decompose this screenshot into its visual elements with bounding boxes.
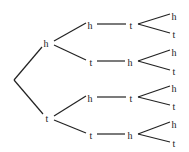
tree-branch — [138, 50, 170, 61]
tree-branch — [138, 97, 170, 105]
tree-branch — [138, 122, 170, 134]
node-label-n22: t — [90, 130, 93, 141]
node-label-n221: h — [128, 130, 133, 141]
node-label-l5: h — [172, 83, 177, 94]
tree-branch — [138, 86, 170, 97]
tree-branch — [138, 61, 170, 70]
node-label-l8: t — [173, 138, 176, 149]
node-label-l7: h — [172, 119, 177, 130]
tree-branch — [54, 23, 86, 41]
node-label-l2: t — [173, 29, 176, 40]
tree-branch — [138, 134, 170, 142]
node-label-l4: t — [173, 66, 176, 77]
tree-branch — [138, 24, 170, 33]
node-label-n111: t — [130, 20, 133, 31]
tree-branch — [54, 45, 86, 60]
tree-diagram: hththtththhthththt — [0, 0, 189, 152]
node-label-l3: h — [172, 47, 177, 58]
node-label-l6: t — [173, 101, 176, 112]
node-label-n1: h — [44, 38, 49, 49]
tree-branch — [14, 80, 43, 114]
node-label-l1: h — [172, 11, 177, 22]
node-label-n2: t — [46, 113, 49, 124]
tree-branch — [14, 47, 42, 80]
tree-branch — [138, 14, 170, 24]
node-label-n21: h — [88, 93, 93, 104]
tree-branch — [54, 120, 86, 133]
tree-branch — [54, 96, 86, 116]
node-label-n211: t — [130, 93, 133, 104]
node-label-n12: t — [90, 57, 93, 68]
node-label-n121: h — [128, 57, 133, 68]
node-label-n11: h — [88, 20, 93, 31]
